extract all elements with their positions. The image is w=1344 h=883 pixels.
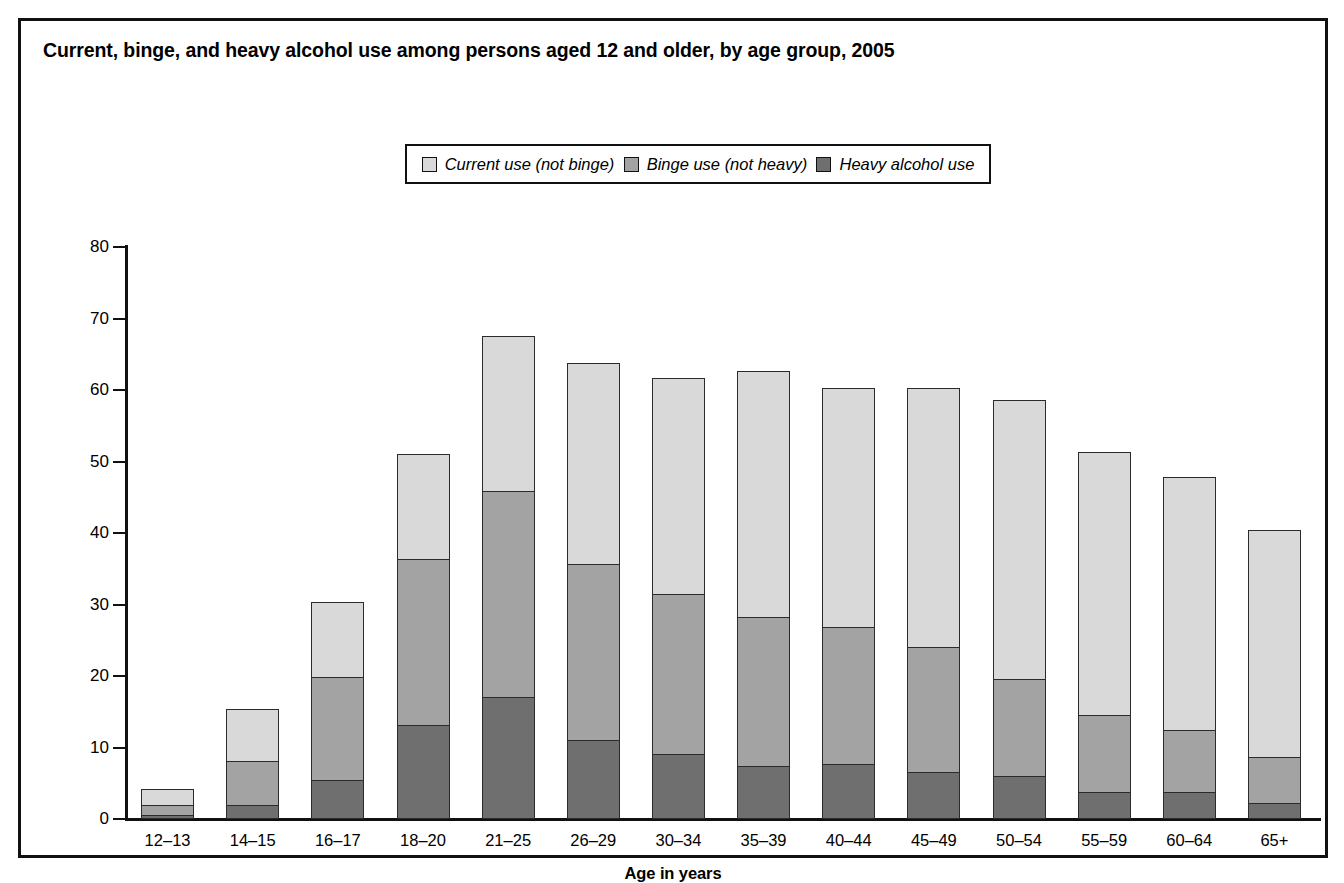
x-axis-tick-label: 60–64 (1166, 831, 1212, 850)
x-axis-tick-label: 21–25 (485, 831, 531, 850)
bar-segment (397, 454, 450, 559)
y-axis-tick (113, 747, 125, 749)
y-axis-tick (113, 461, 125, 463)
legend-swatch-medium (624, 157, 639, 172)
y-axis-tick (113, 818, 125, 820)
y-axis-tick-label: 80 (90, 237, 109, 257)
bar-group (397, 454, 450, 819)
bar-group (1163, 477, 1216, 819)
x-axis-tick-label: 18–20 (400, 831, 446, 850)
bar-segment (737, 617, 790, 766)
bar-segment (141, 815, 194, 819)
bar-segment (482, 491, 535, 697)
legend-item-2: Heavy alcohol use (816, 155, 974, 174)
bar-segment (822, 388, 875, 628)
y-axis-tick (113, 604, 125, 606)
legend-swatch-light (422, 157, 437, 172)
bar-segment (567, 740, 620, 819)
bar-segment (737, 766, 790, 819)
y-axis-tick-label: 0 (100, 809, 109, 829)
bar-segment (311, 780, 364, 819)
bar-group (907, 388, 960, 819)
y-axis-tick-label: 20 (90, 666, 109, 686)
y-axis-tick (113, 532, 125, 534)
legend-item-0: Current use (not binge) (422, 155, 615, 174)
bar-segment (226, 761, 279, 805)
bar-segment (652, 594, 705, 754)
legend-item-1: Binge use (not heavy) (624, 155, 808, 174)
bar-group (737, 371, 790, 819)
bar-segment (822, 627, 875, 764)
x-axis-tick-label: 12–13 (145, 831, 191, 850)
x-axis-tick-label: 26–29 (570, 831, 616, 850)
x-axis-tick-label: 14–15 (230, 831, 276, 850)
bar-group (226, 709, 279, 819)
x-axis-tick-label: 16–17 (315, 831, 361, 850)
y-axis-tick (113, 318, 125, 320)
bar-segment (1078, 792, 1131, 819)
y-axis-tick (113, 246, 125, 248)
bar-segment (652, 378, 705, 594)
bar-group (1078, 452, 1131, 819)
bar-segment (822, 764, 875, 819)
y-axis-tick (113, 675, 125, 677)
bar-segment (737, 371, 790, 617)
chart-legend: Current use (not binge)Binge use (not he… (405, 144, 991, 184)
page-title: Current, binge, and heavy alcohol use am… (43, 39, 895, 62)
bar-segment (141, 789, 194, 805)
bar-segment (907, 388, 960, 648)
x-axis-tick-label: 35–39 (741, 831, 787, 850)
bar-segment (482, 336, 535, 491)
y-axis-tick-label: 50 (90, 452, 109, 472)
bar-segment (397, 725, 450, 819)
bar-segment (1248, 803, 1301, 819)
x-axis-tick-label: 65+ (1260, 831, 1288, 850)
bar-segment (1163, 477, 1216, 729)
bar-segment (1163, 730, 1216, 792)
bar-segment (567, 363, 620, 565)
bar-group (822, 388, 875, 819)
bar-group (482, 336, 535, 819)
bar-group (993, 400, 1046, 819)
bar-segment (141, 805, 194, 815)
x-axis-tick-label: 40–44 (826, 831, 872, 850)
x-axis-title: Age in years (21, 864, 1325, 883)
y-axis-tick-label: 70 (90, 309, 109, 329)
legend-label: Heavy alcohol use (839, 155, 974, 174)
bar-segment (567, 564, 620, 739)
bar-segment (226, 805, 279, 819)
y-axis-tick (113, 389, 125, 391)
bar-segment (993, 776, 1046, 819)
bar-segment (652, 754, 705, 819)
y-axis-tick-label: 10 (90, 738, 109, 758)
bar-group (567, 363, 620, 819)
bar-segment (397, 559, 450, 725)
y-axis-tick-label: 60 (90, 380, 109, 400)
plot-area (125, 247, 1317, 819)
bar-group (311, 602, 364, 819)
bar-segment (907, 647, 960, 771)
bar-group (652, 378, 705, 819)
figure-frame: Current, binge, and heavy alcohol use am… (18, 18, 1328, 858)
x-axis-tick-label: 55–59 (1081, 831, 1127, 850)
bar-segment (993, 679, 1046, 776)
bar-segment (1248, 530, 1301, 757)
legend-swatch-dark (816, 157, 831, 172)
legend-label: Binge use (not heavy) (647, 155, 808, 174)
y-axis-tick-label: 30 (90, 595, 109, 615)
bar-segment (1078, 715, 1131, 792)
bar-segment (311, 602, 364, 677)
bar-segment (907, 772, 960, 819)
x-axis-tick-label: 45–49 (911, 831, 957, 850)
bar-segment (993, 400, 1046, 679)
y-axis-tick-label: 40 (90, 523, 109, 543)
bar-group (141, 789, 194, 819)
x-axis-tick-label: 50–54 (996, 831, 1042, 850)
bar-segment (226, 709, 279, 761)
x-axis-tick-label: 30–34 (655, 831, 701, 850)
bar-segment (1163, 792, 1216, 819)
bar-segment (482, 697, 535, 819)
bar-segment (1078, 452, 1131, 715)
legend-label: Current use (not binge) (445, 155, 615, 174)
bar-segment (1248, 757, 1301, 803)
